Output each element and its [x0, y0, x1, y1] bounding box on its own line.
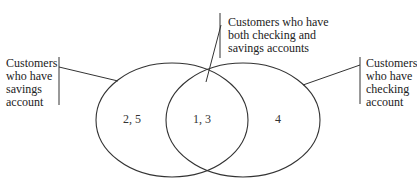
- intersection-region: 1, 3: [193, 112, 211, 127]
- intersection-leader-line: [206, 25, 221, 82]
- savings-set-label: Customers who have savings account: [6, 57, 57, 109]
- checking-leader-line: [303, 65, 360, 85]
- venn-diagram: [0, 0, 417, 187]
- intersection-label: Customers who have both checking and sav…: [228, 16, 329, 55]
- label-line: account: [366, 96, 417, 109]
- label-line: account: [6, 96, 57, 109]
- label-line: savings accounts: [228, 42, 329, 55]
- savings-leader-line: [59, 67, 118, 81]
- savings-only-region: 2, 5: [123, 112, 141, 127]
- checking-only-region: 4: [275, 112, 281, 127]
- checking-set-ellipse: [166, 63, 320, 177]
- checking-set-label: Customers who have checking account: [366, 57, 417, 109]
- savings-set-ellipse: [96, 63, 248, 177]
